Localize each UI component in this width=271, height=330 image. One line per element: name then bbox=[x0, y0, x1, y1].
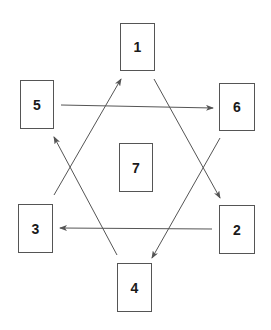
node-5-label: 5 bbox=[33, 97, 41, 113]
edge-2-to-3 bbox=[60, 228, 212, 229]
node-7-label: 7 bbox=[132, 160, 140, 176]
edge-1-to-2 bbox=[154, 79, 220, 198]
node-1: 1 bbox=[120, 23, 155, 71]
node-1-label: 1 bbox=[134, 39, 142, 55]
edge-4-to-5 bbox=[54, 137, 117, 255]
edge-3-to-1 bbox=[54, 79, 121, 195]
node-7: 7 bbox=[119, 143, 153, 192]
node-3: 3 bbox=[18, 204, 53, 253]
edge-6-to-4 bbox=[152, 138, 220, 258]
node-2-label: 2 bbox=[233, 222, 241, 238]
node-4-label: 4 bbox=[131, 280, 139, 296]
node-2: 2 bbox=[219, 205, 255, 254]
edge-5-to-6 bbox=[61, 105, 213, 108]
node-5: 5 bbox=[20, 80, 54, 129]
node-6-label: 6 bbox=[233, 99, 241, 115]
node-3-label: 3 bbox=[32, 221, 40, 237]
node-6: 6 bbox=[219, 83, 255, 131]
node-4: 4 bbox=[117, 263, 152, 312]
flow-diagram: 1 2 3 4 5 6 7 bbox=[0, 0, 271, 330]
